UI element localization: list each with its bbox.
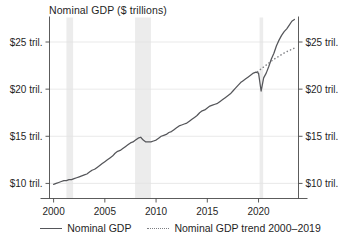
series-lines	[54, 19, 295, 184]
x-axis-label: 2005	[94, 206, 117, 217]
chart-legend: Nominal GDP Nominal GDP trend 2000–2019	[0, 222, 361, 234]
legend-line-dotted-icon	[147, 228, 169, 229]
legend-line-solid-icon	[40, 228, 62, 229]
axis-lines	[41, 17, 308, 199]
legend-label-nominal-gdp: Nominal GDP	[67, 222, 131, 234]
series-line-nominal-gdp	[54, 19, 295, 184]
legend-item-nominal-gdp-trend: Nominal GDP trend 2000–2019	[147, 222, 320, 234]
y-axis-label-left: $15 tril.	[10, 131, 43, 142]
chart-plot-area: $10 tril.$10 tril.$15 tril.$15 tril.$20 …	[0, 0, 361, 244]
recession-bands	[66, 18, 263, 199]
legend-label-nominal-gdp-trend: Nominal GDP trend 2000–2019	[174, 222, 320, 234]
recession-band-2020	[260, 18, 264, 199]
x-axis-label: 2000	[42, 206, 65, 217]
y-axis-label-right: $15 tril.	[306, 131, 339, 142]
x-axis-label: 2015	[196, 206, 219, 217]
y-axis-label-left: $25 tril.	[10, 37, 43, 48]
y-axis-label-right: $25 tril.	[306, 37, 339, 48]
x-axis-label: 2010	[145, 206, 168, 217]
nominal-gdp-chart: Nominal GDP ($ trillions) $10 tril.$10 t…	[0, 0, 361, 244]
recession-band-2001	[66, 18, 73, 199]
y-axis-label-right: $20 tril.	[306, 84, 339, 95]
y-axis-label-right: $10 tril.	[306, 178, 339, 189]
y-axis-label-left: $10 tril.	[10, 178, 43, 189]
axis-ticks	[46, 42, 303, 202]
legend-item-nominal-gdp: Nominal GDP	[40, 222, 131, 234]
y-axis-label-left: $20 tril.	[10, 84, 43, 95]
x-axis-label: 2020	[247, 206, 270, 217]
recession-band-2008	[135, 18, 151, 199]
axis-tick-labels: $10 tril.$10 tril.$15 tril.$15 tril.$20 …	[10, 37, 339, 217]
